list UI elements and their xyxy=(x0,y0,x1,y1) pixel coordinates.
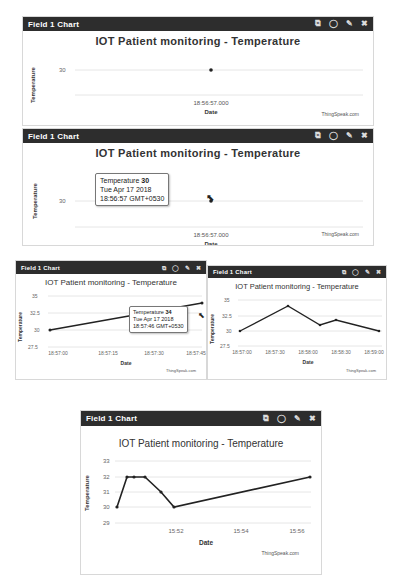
external-link-icon[interactable]: ⧉ xyxy=(342,269,346,275)
svg-text:18:57:00: 18:57:00 xyxy=(48,350,68,356)
y-axis-label: Temperature xyxy=(30,66,36,103)
external-link-icon[interactable]: ⧉ xyxy=(162,265,166,271)
x-axis-label: Date xyxy=(204,109,218,115)
y-axis-label: Temperature xyxy=(209,314,215,344)
x-axis-label: Date xyxy=(204,241,218,246)
panel-title: Field 1 Chart xyxy=(21,265,60,271)
chart-title: IOT Patient monitoring - Temperature xyxy=(208,282,386,291)
pencil-icon[interactable]: ✎ xyxy=(185,265,190,271)
y-axis-label: Temperature xyxy=(84,474,90,511)
x-tick: 18:56:57.000 xyxy=(193,232,229,238)
close-icon[interactable]: ✖ xyxy=(361,20,368,28)
y-tick: 30 xyxy=(59,67,66,73)
x-axis-label: Date xyxy=(303,359,314,365)
chart-panel-3: Field 1 Chart ⧉ ◯ ✎ ✖ IOT Patient monito… xyxy=(15,260,207,380)
chart-panel-1: Field 1 Chart ⧉ ◯ ✎ ✖ IOT Patient monito… xyxy=(22,16,374,126)
panel-header: Field 1 Chart ⧉ ◯ ✎ ✖ xyxy=(81,411,321,426)
chart-plot: Temperature 35 32.5 30 27.5 18:57:00 18:… xyxy=(208,291,387,380)
pencil-icon[interactable]: ✎ xyxy=(346,132,353,140)
chart-title: IOT Patient monitoring - Temperature xyxy=(81,438,321,449)
svg-text:15:52: 15:52 xyxy=(168,528,184,534)
pencil-icon[interactable]: ✎ xyxy=(365,269,370,275)
close-icon[interactable]: ✖ xyxy=(196,265,201,271)
svg-text:15:56: 15:56 xyxy=(289,528,305,534)
mouse-cursor-icon: ⬉ xyxy=(198,311,205,320)
external-link-icon[interactable]: ⧉ xyxy=(315,20,321,28)
y-axis-label: Temperature xyxy=(32,182,38,219)
comment-icon[interactable]: ◯ xyxy=(277,415,286,423)
svg-text:18:58:30: 18:58:30 xyxy=(331,349,351,355)
svg-text:30: 30 xyxy=(226,328,232,334)
svg-text:30: 30 xyxy=(103,504,110,510)
panel-header: Field 1 Chart ⧉ ◯ ✎ ✖ xyxy=(23,17,373,31)
y-tick: 30 xyxy=(59,198,66,204)
comment-icon[interactable]: ◯ xyxy=(172,265,179,271)
comment-icon[interactable]: ◯ xyxy=(329,20,338,28)
svg-text:27.5: 27.5 xyxy=(28,344,38,350)
svg-text:18:57:00: 18:57:00 xyxy=(232,349,252,355)
comment-icon[interactable]: ◯ xyxy=(352,269,359,275)
panel-header: Field 1 Chart ⧉ ◯ ✎ ✖ xyxy=(16,261,206,274)
svg-text:18:57:30: 18:57:30 xyxy=(144,350,164,356)
svg-text:31: 31 xyxy=(103,489,110,495)
data-tooltip: Temperature 34 Tue Apr 17 2018 18:57:46 … xyxy=(129,306,188,333)
chart-title: IOT Patient monitoring - Temperature xyxy=(23,147,373,159)
svg-text:35: 35 xyxy=(224,297,230,303)
chart-panel-4: Field 1 Chart ⧉ ◯ ✎ ✖ IOT Patient monito… xyxy=(207,265,387,380)
panel-header: Field 1 Chart ⧉ ◯ ✎ ✖ xyxy=(23,129,373,143)
credit-link[interactable]: ThingSpeak.com xyxy=(321,111,359,117)
svg-text:18:57:45: 18:57:45 xyxy=(186,350,206,356)
svg-text:32.5: 32.5 xyxy=(30,310,40,316)
chart-title: IOT Patient monitoring - Temperature xyxy=(16,278,206,287)
svg-text:18:59:00: 18:59:00 xyxy=(364,349,384,355)
x-tick: 18:56:57.000 xyxy=(193,100,229,106)
credit-link[interactable]: ThingSpeak.com xyxy=(166,368,196,373)
panel-title: Field 1 Chart xyxy=(86,414,137,423)
panel-title: Field 1 Chart xyxy=(28,20,79,29)
svg-text:32.5: 32.5 xyxy=(222,313,232,319)
x-axis-label: Date xyxy=(121,360,132,366)
comment-icon[interactable]: ◯ xyxy=(329,132,338,140)
chart-panel-5: Field 1 Chart ⧉ ◯ ✎ ✖ IOT Patient monito… xyxy=(80,410,322,575)
svg-text:15:54: 15:54 xyxy=(233,528,249,534)
svg-text:29: 29 xyxy=(103,520,110,526)
svg-text:35: 35 xyxy=(32,293,38,299)
mouse-cursor-icon: ⬉ xyxy=(206,192,214,203)
pencil-icon[interactable]: ✎ xyxy=(346,20,353,28)
credit-link[interactable]: ThingSpeak.com xyxy=(321,231,359,237)
svg-text:32: 32 xyxy=(103,474,110,480)
credit-link[interactable]: ThingSpeak.com xyxy=(261,550,299,556)
data-point xyxy=(209,68,213,72)
panel-title: Field 1 Chart xyxy=(213,269,252,275)
chart-plot: Temperature 35 32.5 30 27.5 18:57:00 18:… xyxy=(16,287,207,380)
chart-panel-2: Field 1 Chart ⧉ ◯ ✎ ✖ IOT Patient monito… xyxy=(22,128,374,246)
svg-text:18:57:30: 18:57:30 xyxy=(265,349,285,355)
panel-header: Field 1 Chart ⧉ ◯ ✎ ✖ xyxy=(208,266,386,278)
svg-text:30: 30 xyxy=(34,327,40,333)
pencil-icon[interactable]: ✎ xyxy=(294,415,301,423)
chart-title: IOT Patient monitoring - Temperature xyxy=(23,35,373,47)
panel-title: Field 1 Chart xyxy=(28,132,79,141)
x-axis-label: Date xyxy=(199,539,213,546)
svg-text:33: 33 xyxy=(103,458,110,464)
close-icon[interactable]: ✖ xyxy=(376,269,381,275)
close-icon[interactable]: ✖ xyxy=(361,132,368,140)
svg-text:18:58:00: 18:58:00 xyxy=(298,349,318,355)
credit-link[interactable]: ThingSpeak.com xyxy=(346,368,376,373)
close-icon[interactable]: ✖ xyxy=(309,415,316,423)
y-axis-label: Temperature xyxy=(17,312,23,342)
svg-text:18:57:15: 18:57:15 xyxy=(98,350,118,356)
external-link-icon[interactable]: ⧉ xyxy=(263,415,269,423)
external-link-icon[interactable]: ⧉ xyxy=(315,132,321,140)
svg-text:27.5: 27.5 xyxy=(220,343,230,349)
data-tooltip: Temperature 30 Tue Apr 17 2018 18:56:57 … xyxy=(95,173,169,206)
